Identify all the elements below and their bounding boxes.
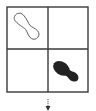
- grid-cell-top-left: [7, 7, 48, 49]
- grid-cell-top-right: [48, 7, 88, 49]
- arrow-down-icon: [46, 99, 51, 111]
- step-diagram: [0, 0, 96, 111]
- grid-cell-bottom-left: [7, 49, 48, 92]
